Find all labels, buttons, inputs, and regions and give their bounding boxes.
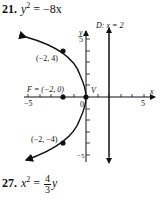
label-directrix: D: x = 2: [95, 21, 123, 30]
label-x-min: −5: [24, 99, 33, 108]
label-origin: 0: [80, 100, 84, 109]
label-y-max: 5: [79, 35, 83, 44]
focus-point: [60, 94, 65, 99]
label-pt-top: (−2, 4): [36, 54, 58, 63]
equation-var: y: [52, 176, 57, 190]
label-focus: F = (−2, 0): [26, 85, 64, 94]
label-y-min: −5: [77, 152, 85, 160]
fraction-denominator: 3: [44, 185, 51, 195]
vertex-point: [83, 94, 88, 99]
point-top: [60, 48, 65, 53]
label-x-axis: x: [149, 87, 154, 96]
problem-number: 27.: [2, 176, 17, 190]
problem-27-heading: 27.x2 = 43y: [2, 174, 57, 195]
label-x-max: 5: [141, 99, 145, 108]
point-bottom: [60, 140, 65, 145]
parabola-graph: (−2, 4) (−2, −4) F = (−2, 0) V D: x = 2 …: [0, 0, 164, 175]
label-pt-bottom: (−2, −4): [31, 135, 58, 144]
label-vertex: V: [91, 86, 97, 95]
equation-exponent: 2: [26, 175, 30, 184]
equation-equals: =: [33, 176, 40, 190]
fraction: 43: [44, 174, 51, 195]
